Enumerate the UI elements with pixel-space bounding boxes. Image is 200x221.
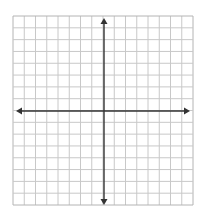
arrow-down-icon	[101, 199, 108, 205]
arrow-up-icon	[101, 18, 108, 24]
arrow-left-icon	[16, 108, 22, 115]
coordinate-plane	[0, 0, 200, 221]
arrow-right-icon	[184, 108, 190, 115]
